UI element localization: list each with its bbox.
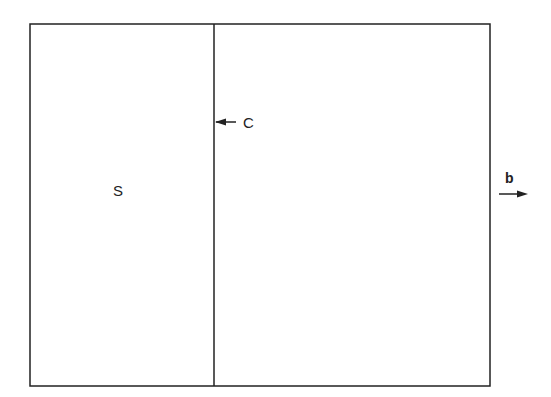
- boundary-label-c: C: [243, 115, 254, 130]
- c-arrow-icon: [215, 119, 236, 126]
- vector-label-b: b: [505, 171, 514, 185]
- outer-frame: [30, 24, 490, 386]
- diagram-canvas: [0, 0, 551, 397]
- region-label-s: S: [113, 183, 123, 198]
- b-arrow-icon: [499, 191, 528, 198]
